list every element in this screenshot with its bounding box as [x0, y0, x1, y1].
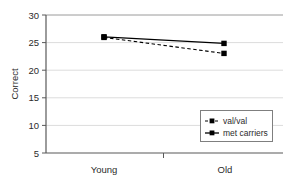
- y-tick-label-15: 15: [28, 92, 39, 103]
- series-val-val-marker-old: [221, 51, 226, 56]
- line-chart: 30 25 20 15 10 5 Correct Young Old: [0, 0, 301, 185]
- series-met-carriers-marker-old: [221, 41, 226, 46]
- series-val-val-marker-young: [101, 35, 106, 40]
- legend-label-val-val: val/val: [223, 116, 247, 126]
- legend-label-met-carriers: met carriers: [223, 128, 268, 138]
- legend-swatch-val-val-marker: [210, 119, 215, 124]
- legend-swatch-met-carriers-marker: [210, 131, 215, 136]
- y-tick-label-20: 20: [28, 65, 39, 76]
- y-axis-title: Correct: [9, 68, 20, 100]
- legend: val/val met carriers: [201, 111, 273, 142]
- chart-canvas: 30 25 20 15 10 5 Correct Young Old: [0, 0, 301, 185]
- y-tick-labels: 30 25 20 15 10 5: [28, 10, 39, 159]
- y-tick-label-5: 5: [34, 148, 39, 159]
- x-tick-label-old: Old: [218, 164, 233, 175]
- y-tick-label-10: 10: [28, 120, 39, 131]
- x-tick-label-young: Young: [91, 164, 118, 175]
- y-tick-label-25: 25: [28, 37, 39, 48]
- y-tick-label-30: 30: [28, 10, 39, 21]
